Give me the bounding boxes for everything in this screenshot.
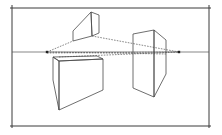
- perspective-drawing: [0, 0, 222, 135]
- frame: [10, 5, 211, 128]
- box-face: [53, 56, 103, 61]
- box-face: [59, 59, 103, 110]
- box-face: [73, 12, 92, 41]
- boxes: [53, 12, 166, 110]
- construction-lines: [47, 36, 179, 57]
- box-face: [133, 30, 154, 97]
- box-face: [91, 12, 99, 36]
- right-box-straddling-horizon: [133, 30, 166, 97]
- box-face: [154, 30, 166, 97]
- box-face: [53, 57, 59, 110]
- vanishing-point-right: [178, 51, 180, 53]
- vanishing-point-left: [46, 51, 48, 53]
- construction-line: [47, 41, 73, 52]
- left-box-below-horizon: [53, 56, 103, 110]
